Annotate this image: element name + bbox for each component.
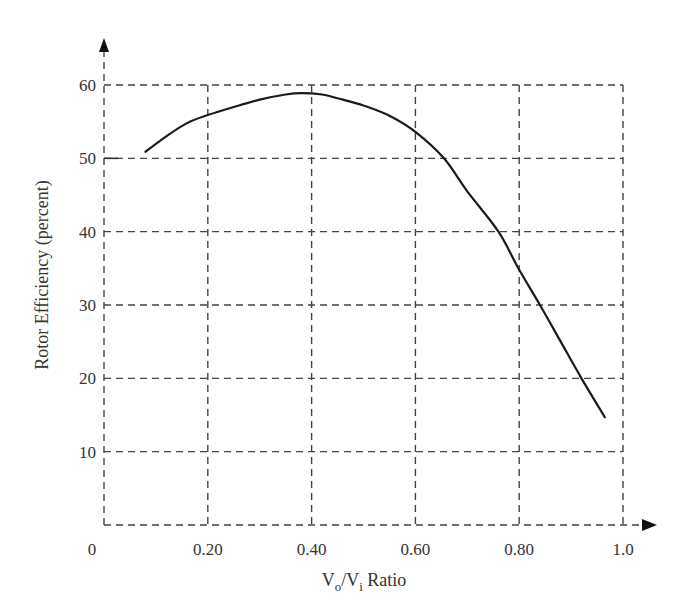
efficiency-curve: [146, 93, 605, 417]
y-tick-label: 10: [79, 443, 96, 462]
x-tick-label: 0.20: [193, 540, 223, 559]
y-tick-label: 50: [79, 149, 96, 168]
y-tick-label: 30: [79, 296, 96, 315]
x-tick-label: 0.60: [401, 540, 431, 559]
x-tick-label: 0.80: [504, 540, 534, 559]
x-tick-label: 0: [88, 540, 97, 559]
y-tick-label: 20: [79, 369, 96, 388]
y-axis-arrow-icon: [99, 38, 109, 52]
tick-labels: 10203040506000.200.400.600.801.0: [79, 76, 634, 559]
grid-lines: [104, 85, 623, 525]
x-tick-label: 0.40: [297, 540, 327, 559]
x-axis-label: Vo/Vi Ratio: [322, 570, 407, 594]
x-axis-arrow-icon: [642, 519, 657, 531]
x-tick-label: 1.0: [612, 540, 633, 559]
y-tick-label: 60: [79, 76, 96, 95]
y-axis-label: Rotor Efficiency (percent): [32, 180, 53, 370]
line-chart: 10203040506000.200.400.600.801.0 Rotor E…: [0, 0, 694, 616]
y-tick-label: 40: [79, 223, 96, 242]
